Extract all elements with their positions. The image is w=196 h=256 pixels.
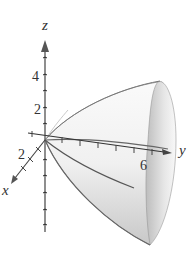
x-axis <box>11 140 45 184</box>
z-axis-label: z <box>42 18 48 33</box>
z-tick-label-2: 2 <box>34 103 41 117</box>
z-tick-label-4: 4 <box>32 70 39 84</box>
paraboloid-plot <box>0 0 196 256</box>
x-axis-label: x <box>2 183 9 198</box>
x-tick-label-2: 2 <box>18 148 25 162</box>
y-tick-label-6: 6 <box>140 159 147 173</box>
z-axis-upper <box>41 40 49 140</box>
z-axis-lower <box>43 140 47 232</box>
y-axis-label: y <box>179 143 186 158</box>
paraboloid-figure: z 4 2 2 x 6 y <box>0 0 196 256</box>
